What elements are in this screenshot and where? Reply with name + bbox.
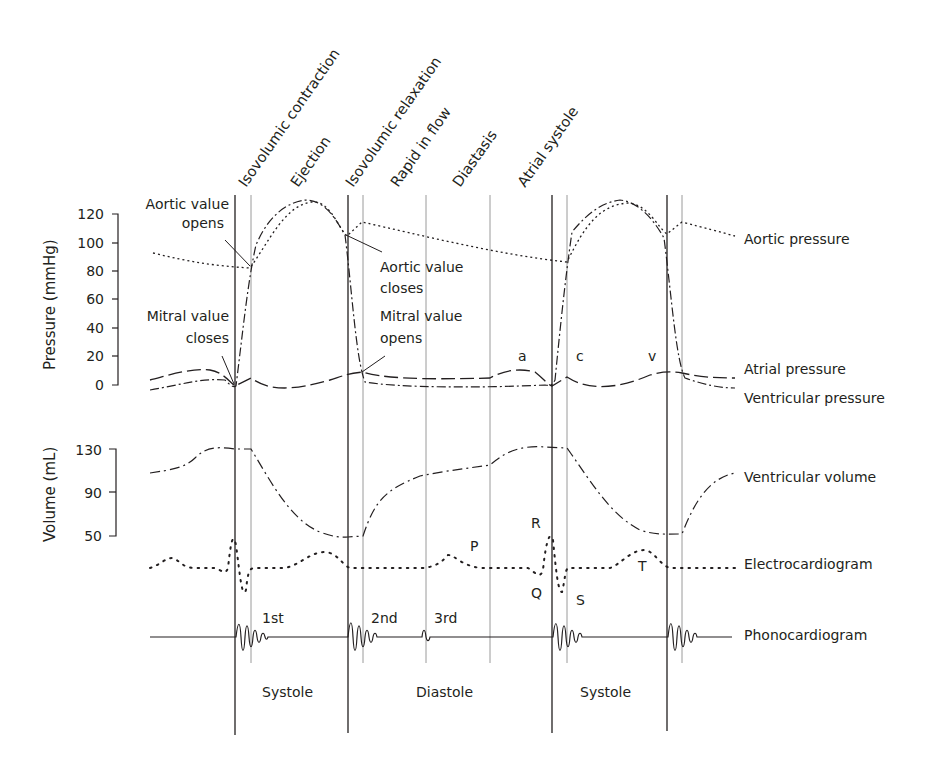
- wiggers-diagram: Isovolumic contraction Ejection Isovolum…: [0, 0, 946, 758]
- phase-label-isovolumic-contraction: Isovolumic contraction: [235, 46, 342, 190]
- pressure-tick-80: 80: [86, 263, 104, 279]
- legend-electrocardiogram: Electrocardiogram: [744, 556, 873, 572]
- phase-label-ejection: Ejection: [287, 133, 333, 190]
- c-wave-label: c: [576, 348, 584, 364]
- phonocardiogram-curve: [150, 623, 732, 651]
- ventricular-volume-curve: [150, 447, 735, 537]
- mitral-valve-opens-label-2: opens: [380, 330, 422, 346]
- mitral-valve-opens-label: Mitral value: [380, 308, 462, 324]
- heart-sound-2nd-label: 2nd: [371, 610, 398, 626]
- mitral-valve-closes-label-2: closes: [186, 330, 229, 346]
- volume-tick-50: 50: [84, 528, 102, 544]
- heart-sound-labels: 1st 2nd 3rd: [262, 610, 457, 626]
- cycle-labels: Systole Diastole Systole: [262, 684, 631, 700]
- heart-sound-3rd-label: 3rd: [434, 610, 457, 626]
- aortic-valve-closes-label: Aortic value: [380, 259, 463, 275]
- electrocardiogram-curve: [150, 536, 735, 592]
- systole-label-1: Systole: [262, 684, 313, 700]
- v-wave-label: v: [648, 348, 656, 364]
- mitral-valve-closes-label: Mitral value: [147, 308, 229, 324]
- pressure-tick-0: 0: [95, 377, 104, 393]
- valve-pointers: [222, 235, 385, 384]
- p-wave-label: P: [470, 538, 478, 554]
- legend-ventricular-pressure: Ventricular pressure: [744, 390, 885, 406]
- pressure-tick-100: 100: [77, 235, 104, 251]
- pressure-tick-60: 60: [86, 291, 104, 307]
- phase-label-diastasis: Diastasis: [449, 127, 500, 190]
- pressure-tick-40: 40: [86, 320, 104, 336]
- systole-label-2: Systole: [580, 684, 631, 700]
- a-wave-label: a: [518, 348, 527, 364]
- q-wave-label: Q: [531, 585, 542, 601]
- aortic-valve-closes-label-2: closes: [380, 280, 423, 296]
- ecg-labels: P R Q S T: [470, 515, 647, 608]
- aortic-valve-opens-label-2: opens: [182, 215, 224, 231]
- legend-atrial-pressure: Atrial pressure: [744, 361, 846, 377]
- heart-sound-1st-label: 1st: [262, 610, 284, 626]
- pressure-tick-20: 20: [86, 348, 104, 364]
- volume-axis-label: Volume (mL): [41, 447, 59, 542]
- pressure-axis-label: Pressure (mmHg): [41, 239, 59, 370]
- legend-phonocardiogram: Phonocardiogram: [744, 627, 867, 643]
- legend-ventricular-volume: Ventricular volume: [744, 469, 876, 485]
- volume-tick-130: 130: [75, 442, 102, 458]
- annotations: Aortic value opens Mitral value closes A…: [146, 196, 657, 364]
- pressure-tick-120: 120: [77, 206, 104, 222]
- phase-labels: Isovolumic contraction Ejection Isovolum…: [235, 46, 581, 190]
- s-wave-label: S: [576, 592, 585, 608]
- r-wave-label: R: [531, 515, 541, 531]
- phase-label-atrial-systole: Atrial systole: [514, 103, 581, 189]
- aortic-valve-opens-label: Aortic value: [146, 196, 229, 212]
- legend-aortic-pressure: Aortic pressure: [744, 231, 850, 247]
- diastole-label: Diastole: [416, 684, 473, 700]
- volume-tick-90: 90: [84, 485, 102, 501]
- phase-guide-lines: [235, 195, 682, 735]
- t-wave-label: T: [637, 558, 647, 574]
- volume-axis: 130 90 50 Volume (mL): [41, 442, 116, 544]
- pressure-axis: 120 100 80 60 40 20 0 Pressure (mmHg): [41, 206, 118, 393]
- trace-legend: Aortic pressure Atrial pressure Ventricu…: [744, 231, 885, 643]
